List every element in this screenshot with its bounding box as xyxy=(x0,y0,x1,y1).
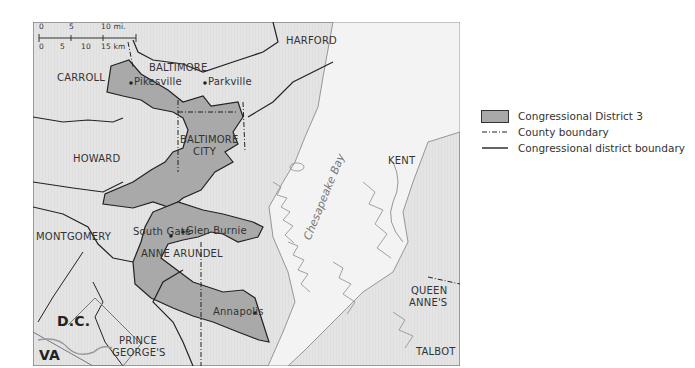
county-kent: KENT xyxy=(388,155,415,166)
county-queen-anne-1: QUEEN xyxy=(411,285,447,296)
county-harford: HARFORD xyxy=(286,35,337,46)
legend-item-district: Congressional District 3 xyxy=(480,108,685,124)
county-carroll: CARROLL xyxy=(57,72,105,83)
legend-item-district-boundary: Congressional district boundary xyxy=(480,140,685,156)
county-prince-georges-2: GEORGE'S xyxy=(112,347,166,358)
scale-mi-0: 0 xyxy=(39,22,44,31)
map-legend: Congressional District 3 County boundary… xyxy=(480,108,685,156)
district-map: 0 5 10 mi. 0 5 10 15 km CARROLL BALTIMOR… xyxy=(33,22,460,366)
county-queen-anne-2: ANNE'S xyxy=(409,297,447,308)
gray-fill-swatch-icon xyxy=(480,110,510,123)
dash-dot-line-icon xyxy=(480,130,510,134)
legend-label: Congressional District 3 xyxy=(518,110,643,122)
place-parkville: Parkville xyxy=(208,76,252,87)
scale-km-15: 15 km xyxy=(101,42,126,51)
scale-km-5: 5 xyxy=(60,42,65,51)
place-glen-burnie: Glen Burnie xyxy=(186,225,247,236)
county-anne-arundel: ANNE ARUNDEL xyxy=(141,248,223,259)
scale-km-10: 10 xyxy=(81,42,91,51)
scale-km-0: 0 xyxy=(39,42,44,51)
county-prince-georges-1: PRINCE xyxy=(119,335,157,346)
solid-line-icon xyxy=(480,146,510,150)
county-baltimore-city-2: CITY xyxy=(193,146,216,157)
legend-label: County boundary xyxy=(518,126,609,138)
county-baltimore: BALTIMORE xyxy=(149,62,208,73)
county-howard: HOWARD xyxy=(73,153,120,164)
region-va: VA xyxy=(39,347,60,363)
region-dc: D.C. xyxy=(57,313,90,329)
legend-item-county-boundary: County boundary xyxy=(480,124,685,140)
county-montgomery: MONTGOMERY xyxy=(36,231,111,242)
scale-mi-10: 10 mi. xyxy=(101,22,126,31)
county-talbot: TALBOT xyxy=(416,346,456,357)
place-annapolis: Annapolis xyxy=(213,306,264,317)
place-pikesville: Pikesville xyxy=(134,76,182,87)
county-baltimore-city-1: BALTIMORE xyxy=(180,134,239,145)
legend-label: Congressional district boundary xyxy=(518,142,685,154)
place-south-gate: South Gate xyxy=(133,226,191,237)
scale-mi-5: 5 xyxy=(69,22,74,31)
